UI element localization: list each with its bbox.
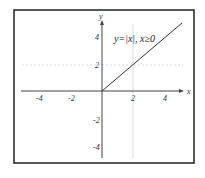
y-axis-label: y <box>98 12 103 21</box>
equation-annotation: y=|x|, x≥0 <box>113 33 155 44</box>
y-tick-label: -2 <box>93 116 100 125</box>
x-tick-label: 4 <box>163 94 167 103</box>
y-tick-label: 4 <box>95 33 99 42</box>
y-tick-label: -4 <box>93 143 100 152</box>
x-tick-label: -4 <box>36 94 43 103</box>
x-tick-label: 2 <box>131 94 135 103</box>
x-axis-label: x <box>186 87 191 96</box>
x-tick-label: -2 <box>68 94 75 103</box>
y-tick-label: 2 <box>95 61 99 70</box>
chart-frame <box>14 10 194 163</box>
chart: x y -4 -2 2 4 4 2 -2 -4 y=|x|, x≥0 <box>0 0 205 178</box>
